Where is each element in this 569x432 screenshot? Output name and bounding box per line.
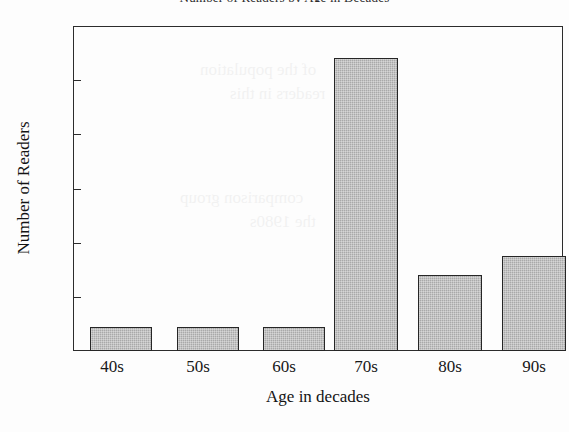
y-tick-12 (73, 26, 81, 27)
x-tick-label-40s: 40s (74, 357, 150, 376)
y-tick-4 (73, 243, 81, 244)
bar-40s (90, 327, 152, 351)
x-axis-title: Age in decades (73, 387, 563, 407)
x-tick-label-70s: 70s (328, 357, 404, 376)
y-tick-8 (73, 134, 81, 135)
bar-80s (418, 275, 482, 351)
bar-50s (177, 327, 239, 351)
y-axis-title: Number of Readers (14, 28, 34, 348)
y-tick-2 (73, 297, 81, 298)
bar-70s (334, 58, 398, 351)
chart-title: Number of Readers by Age in Decades (0, 0, 569, 2)
x-tick-label-50s: 50s (160, 357, 236, 376)
y-tick-10 (73, 80, 81, 81)
bar-90s (502, 256, 566, 351)
y-tick-6 (73, 189, 81, 190)
x-tick-label-90s: 90s (496, 357, 569, 376)
plot-area (73, 26, 563, 351)
x-tick-label-60s: 60s (246, 357, 322, 376)
bar-60s (263, 327, 325, 351)
bar-chart-figure: Number of Readers by Age in Decades of t… (0, 0, 569, 432)
x-tick-label-80s: 80s (412, 357, 488, 376)
